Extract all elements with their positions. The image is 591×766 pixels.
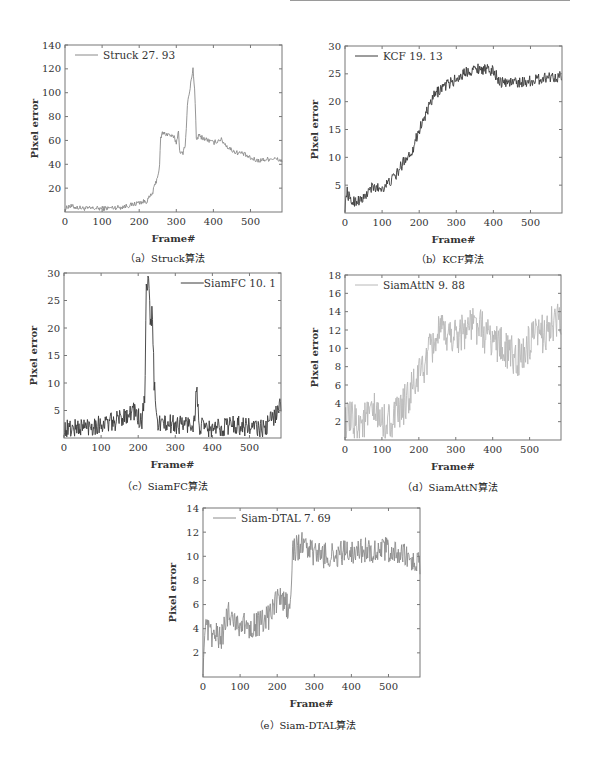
- y-axis-label: Pixel error: [167, 562, 178, 622]
- caption-e: （e）Siam-DTAL算法: [254, 717, 357, 732]
- x-tick-label: 200: [268, 681, 287, 692]
- chart-e: 01002003004005002468101214Frame#Pixel er…: [0, 0, 591, 766]
- x-tick-label: 400: [342, 681, 361, 692]
- y-tick-label: 10: [186, 551, 199, 562]
- legend: Siam-DTAL 7. 69: [213, 512, 331, 524]
- x-tick-label: 300: [305, 681, 324, 692]
- y-tick-label: 12: [186, 527, 199, 538]
- x-tick-label: 0: [200, 681, 206, 692]
- plot-frame: [203, 508, 420, 677]
- x-tick-label: 100: [231, 681, 250, 692]
- x-tick-label: 500: [379, 681, 398, 692]
- x-axis-label: Frame#: [290, 698, 334, 709]
- svg-text:Siam-DTAL 7. 69: Siam-DTAL 7. 69: [241, 512, 331, 524]
- y-tick-label: 6: [193, 599, 199, 610]
- series-line: [203, 532, 420, 674]
- y-tick-label: 2: [193, 647, 199, 658]
- y-tick-label: 4: [193, 623, 199, 634]
- y-tick-label: 8: [193, 575, 199, 586]
- y-tick-label: 14: [186, 503, 199, 514]
